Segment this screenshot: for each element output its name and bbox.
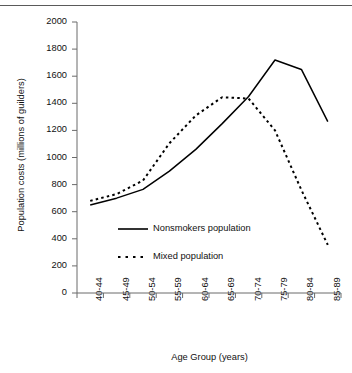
series-line-1 (90, 60, 328, 205)
y-axis-ticks (72, 22, 77, 293)
x-axis-ticks (77, 293, 341, 298)
legend-label-2: Mixed population (153, 251, 223, 261)
data-series-group (90, 60, 328, 245)
legend-label-1: Nonsmokers population (153, 223, 251, 233)
plot-canvas (0, 0, 352, 373)
chart-figure: Population costs (millions of guilders) … (0, 0, 352, 373)
legend-line-samples (118, 229, 148, 257)
